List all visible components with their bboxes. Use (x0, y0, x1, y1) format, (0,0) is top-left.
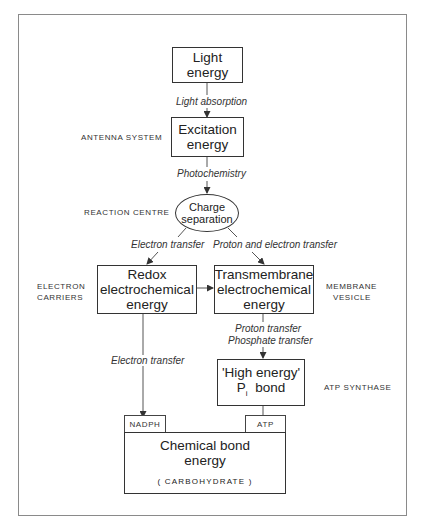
atp-synthase-label: ATP SYNTHASE (324, 383, 391, 393)
transmembrane-line1: Transmembrane (215, 267, 314, 282)
high-energy-bond-box: 'High energy' Pi bond (217, 359, 305, 406)
transmembrane-energy-box: Transmembrane electrochemical energy (214, 265, 314, 314)
redox-energy-box: Redox electrochemical energy (97, 265, 197, 314)
charge-separation-line1: Charge (189, 201, 225, 213)
membrane-vesicle-label-2: VESICLE (333, 293, 371, 303)
redox-line1: Redox (127, 267, 166, 282)
transmembrane-line3: energy (243, 297, 284, 312)
redox-line3: energy (126, 297, 167, 312)
phosphate-symbol: P (237, 380, 246, 395)
redox-line2: electrochemical (100, 282, 194, 297)
phosphate-transfer-label: Phosphate transfer (228, 335, 313, 346)
transmembrane-line2: electrochemical (217, 282, 311, 297)
chemical-bond-line1: Chemical bond (160, 438, 250, 453)
nadph-tag: NADPH (124, 415, 166, 433)
bond-word: bond (255, 380, 285, 395)
light-energy-line2: energy (187, 65, 228, 80)
photochemistry-label: Photochemistry (177, 168, 246, 179)
electron-transfer-left-label: Electron transfer (131, 239, 204, 250)
excitation-energy-line1: Excitation (178, 122, 237, 137)
high-energy-line2: Pi bond (237, 380, 285, 401)
electron-carriers-label-2: CARRIERS (37, 293, 83, 303)
carbohydrate-label: ( CARBOHYDRATE ) (157, 474, 252, 489)
light-energy-line1: Light (193, 50, 222, 65)
electron-transfer-down-label: Electron transfer (111, 355, 184, 366)
chemical-bond-energy-box: Chemical bond energy ( CARBOHYDRATE ) (124, 432, 286, 494)
diagram-canvas: Light energy Light absorption Excitation… (0, 0, 428, 529)
high-energy-line1: 'High energy' (222, 365, 300, 380)
light-absorption-label: Light absorption (176, 96, 247, 107)
proton-transfer-label: Proton transfer (235, 323, 301, 334)
chemical-bond-line2: energy (184, 453, 225, 468)
electron-carriers-label-1: ELECTRON (37, 282, 85, 292)
antenna-system-label: ANTENNA SYSTEM (81, 133, 162, 143)
excitation-energy-box: Excitation energy (171, 117, 244, 157)
light-energy-box: Light energy (172, 47, 243, 83)
phosphate-subscript: i (246, 388, 248, 397)
membrane-vesicle-label-1: MEMBRANE (326, 282, 377, 292)
reaction-centre-label: REACTION CENTRE (84, 208, 169, 218)
proton-electron-transfer-label: Proton and electron transfer (213, 239, 337, 250)
atp-tag: ATP (245, 415, 286, 433)
charge-separation-line2: separation (181, 213, 232, 225)
excitation-energy-line2: energy (187, 137, 228, 152)
charge-separation-node: Charge separation (175, 194, 239, 232)
